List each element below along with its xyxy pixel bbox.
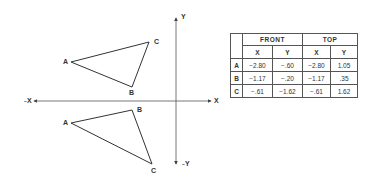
coordinates-table: FRONT TOP X Y X Y A −2.80 −.60 −2.80 1.0… [230,33,358,98]
table-cell: −1.62 [273,85,303,98]
table-row: C −.61 −1.62 −.61 1.62 [231,85,358,98]
table-row: B −1.17 −.20 −1.17 .35 [231,72,358,85]
table-group-top: TOP [303,34,358,46]
y-negative-label: −Y [182,160,190,168]
top-vertex-a-label: A [63,119,68,127]
table-cell: −2.80 [243,59,273,72]
table-row: A −2.80 −.60 −2.80 1.05 [231,59,358,72]
table-cell: −1.17 [243,72,273,85]
front-vertex-b-label: B [129,89,134,97]
top-view-triangle [71,110,152,164]
row-point-label: B [231,72,243,85]
table-subheader: Y [331,46,358,59]
table-subheader: X [243,46,273,59]
table-cell: −1.17 [303,72,331,85]
y-negative-text: Y [185,160,190,167]
top-vertex-c-label: C [151,167,156,175]
front-view-triangle [71,42,149,87]
table-cell: −.61 [303,85,331,98]
row-point-label: C [231,85,243,98]
table-cell: −2.80 [303,59,331,72]
front-vertex-c-label: C [154,38,159,46]
table-cell: 1.05 [331,59,358,72]
x-positive-label: X [214,97,219,105]
front-vertex-a-label: A [63,58,68,66]
table-group-front: FRONT [243,34,303,46]
top-vertex-b-label: B [137,106,142,114]
table-cell: .35 [331,72,358,85]
table-subheader: Y [273,46,303,59]
table-cell: 1.62 [331,85,358,98]
table-cell: −.60 [273,59,303,72]
x-negative-label: −X [24,97,32,105]
coordinate-diagram: Y −Y X −X A B C A B C FRONT TOP X Y X Y … [0,0,377,193]
table-cell: −.20 [273,72,303,85]
table-subheader: X [303,46,331,59]
table-corner-cell [231,34,243,59]
row-point-label: A [231,59,243,72]
x-negative-text: X [27,97,32,104]
y-positive-label: Y [181,13,186,21]
table-cell: −.61 [243,85,273,98]
